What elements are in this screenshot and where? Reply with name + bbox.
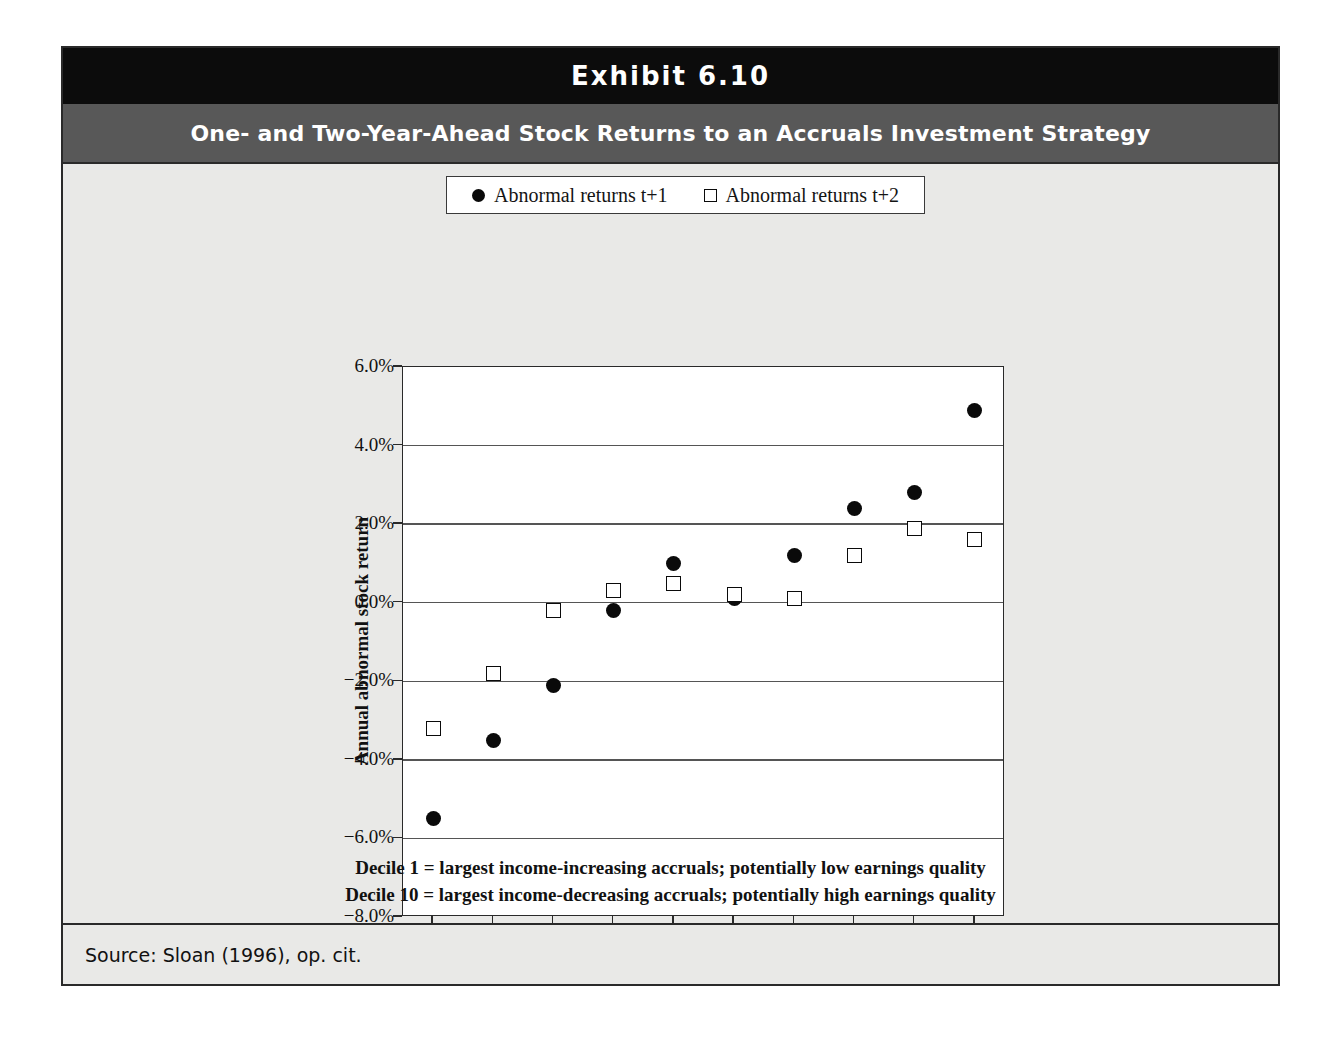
exhibit-subtitle: One- and Two-Year-Ahead Stock Returns to… [190, 121, 1150, 146]
exhibit-subtitle-bar: One- and Two-Year-Ahead Stock Returns to… [63, 104, 1278, 164]
y-axis-tick-mark [393, 365, 402, 366]
y-axis-tick-mark [393, 680, 402, 681]
data-point-t2 [967, 532, 982, 547]
data-point-t2 [727, 587, 742, 602]
data-point-t2 [907, 521, 922, 536]
data-point-t2 [426, 721, 441, 736]
data-point-t2 [847, 548, 862, 563]
data-point-t1 [486, 733, 501, 748]
plot-wrapper: Annual abnormal stock return 6.0%4.0%2.0… [63, 164, 1278, 927]
page-root: Exhibit 6.10 One- and Two-Year-Ahead Sto… [0, 0, 1331, 1060]
chart-notes: Decile 1 = largest income-increasing acc… [63, 854, 1278, 908]
y-axis-tick-mark [393, 522, 402, 523]
data-point-t2 [486, 666, 501, 681]
data-point-t1 [606, 603, 621, 618]
note-line-1: Decile 1 = largest income-increasing acc… [63, 854, 1278, 881]
data-point-t1 [426, 811, 441, 826]
data-point-t1 [787, 548, 802, 563]
gridline [403, 759, 1003, 760]
data-point-t2 [546, 603, 561, 618]
data-point-t1 [847, 501, 862, 516]
source-text: Source: Sloan (1996), op. cit. [63, 944, 362, 966]
y-axis-tick-mark [393, 758, 402, 759]
data-point-t1 [546, 678, 561, 693]
plot-area [402, 366, 1004, 916]
gridline [403, 602, 1003, 603]
y-axis-tick-label: 4.0% [316, 434, 394, 456]
source-bar: Source: Sloan (1996), op. cit. [63, 923, 1278, 984]
note-line-2: Decile 10 = largest income-decreasing ac… [63, 881, 1278, 908]
data-point-t2 [787, 591, 802, 606]
data-point-t2 [666, 576, 681, 591]
y-axis-tick-label: −6.0% [316, 826, 394, 848]
exhibit-label: Exhibit 6.10 [571, 61, 770, 91]
exhibit-card: Exhibit 6.10 One- and Two-Year-Ahead Sto… [61, 46, 1280, 986]
y-axis-tick-label: −4.0% [316, 748, 394, 770]
exhibit-title-bar: Exhibit 6.10 [63, 48, 1278, 104]
chart-body: Abnormal returns t+1 Abnormal returns t+… [63, 164, 1278, 927]
data-point-t2 [606, 583, 621, 598]
data-point-t1 [666, 556, 681, 571]
y-axis-tick-label: 6.0% [316, 355, 394, 377]
data-point-t1 [907, 485, 922, 500]
data-point-t1 [967, 403, 982, 418]
y-axis-tick-label: 2.0% [316, 512, 394, 534]
y-axis-tick-mark [393, 601, 402, 602]
gridline [403, 445, 1003, 446]
y-axis-tick-mark [393, 837, 402, 838]
gridline [403, 838, 1003, 839]
y-axis-tick-mark [393, 915, 402, 916]
y-axis-tick-mark [393, 444, 402, 445]
y-axis-tick-label: 0.0% [316, 591, 394, 613]
y-axis-tick-label: −2.0% [316, 669, 394, 691]
